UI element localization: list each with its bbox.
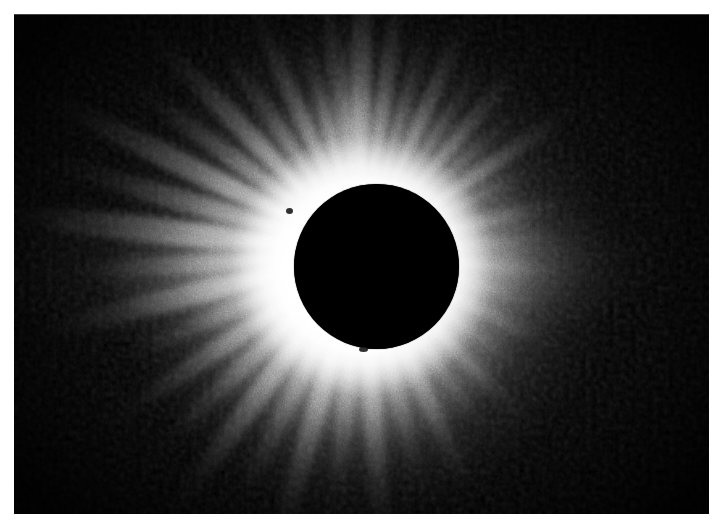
corona-ray — [37, 86, 299, 229]
prominence-south-limb — [359, 347, 368, 352]
corona-ray — [421, 94, 592, 216]
corona-ray — [338, 14, 364, 177]
corona-ray — [405, 47, 535, 198]
corona-ray — [414, 100, 530, 206]
corona-ray — [386, 14, 482, 186]
prominence-west-limb — [286, 208, 293, 214]
corona-ray — [293, 33, 348, 181]
photo-page: Total Solar Eclipse Corona — [0, 0, 724, 529]
corona-ray — [238, 14, 339, 186]
corona-ray — [264, 322, 351, 514]
corona-ray — [61, 248, 287, 282]
occulting-moon-disk — [294, 184, 459, 349]
corona-ray — [146, 298, 313, 460]
corona-ray — [162, 307, 326, 514]
corona-ray — [376, 14, 438, 181]
corona-ray — [373, 324, 430, 497]
corona-ray — [99, 287, 304, 434]
corona-ray — [33, 260, 291, 344]
corona-ray — [314, 14, 359, 178]
corona-ray — [41, 151, 292, 241]
corona-ray — [299, 21, 350, 179]
corona-ray — [326, 327, 362, 514]
corona-ray — [352, 14, 372, 176]
corona-ray — [121, 74, 306, 215]
corona-ray — [135, 18, 316, 205]
corona-ray — [385, 318, 482, 508]
corona-ray — [116, 276, 296, 368]
corona-ray — [229, 317, 336, 513]
eclipse-photograph — [14, 14, 709, 514]
corona-ray — [210, 31, 326, 193]
corona-ray — [397, 48, 493, 191]
corona-ray — [434, 191, 583, 240]
corona-ray — [364, 14, 411, 178]
corona-ray — [14, 200, 288, 257]
corona-ray — [428, 157, 550, 224]
corona-ray — [358, 327, 393, 514]
